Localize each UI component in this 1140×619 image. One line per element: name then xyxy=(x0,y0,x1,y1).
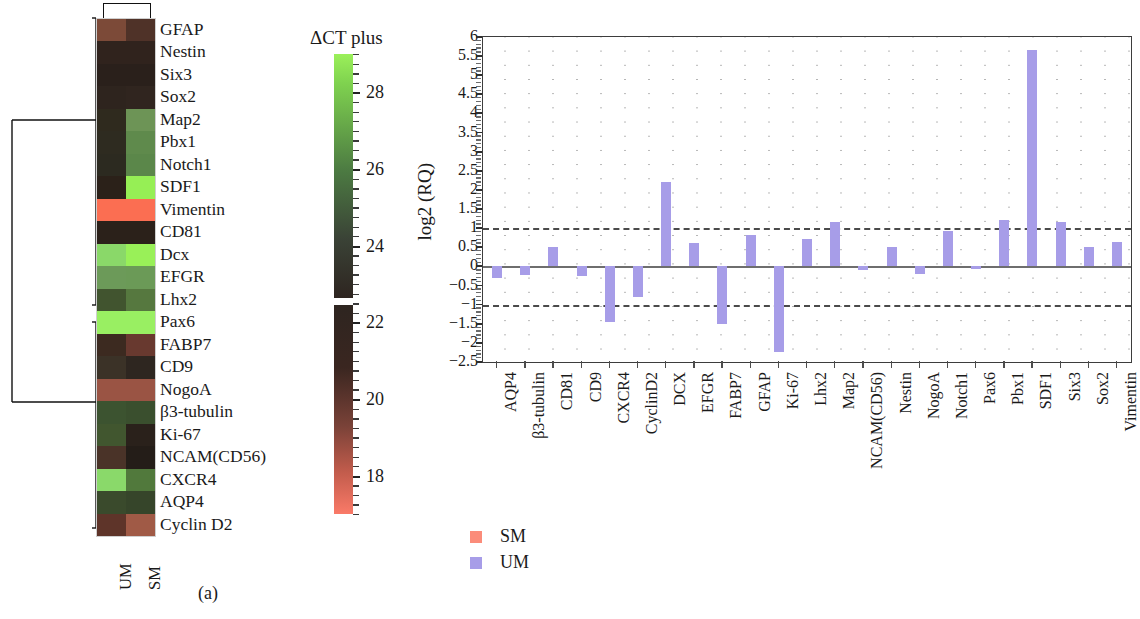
x-tick-label: CD9 xyxy=(587,372,605,402)
heatmap-row-label: Six3 xyxy=(160,66,192,84)
colorbar-tick xyxy=(353,150,359,151)
heatmap-row-label: Cyclin D2 xyxy=(160,516,232,534)
colorbar-tick xyxy=(353,485,359,486)
x-tick-mark xyxy=(1116,361,1117,368)
heatmap-row-label: CD81 xyxy=(160,223,202,241)
x-tick-label: Ki-67 xyxy=(784,372,802,409)
x-tick-mark xyxy=(1060,361,1061,368)
x-tick-mark xyxy=(834,361,835,368)
heatmap-cell xyxy=(97,469,126,491)
colorbar-tick-label: 28 xyxy=(366,82,384,103)
colorbar-tick xyxy=(353,64,359,65)
colorbar-tick xyxy=(353,457,359,458)
colorbar-tick-label: 22 xyxy=(366,312,384,333)
heatmap-row xyxy=(97,446,155,468)
colorbar-tick xyxy=(353,102,359,103)
y-tick-mark xyxy=(476,59,481,60)
plot-area xyxy=(482,36,1132,363)
column-bracket xyxy=(103,3,151,18)
y-tick-mark xyxy=(476,262,481,263)
y-tick-mark xyxy=(476,162,481,163)
x-tick-mark xyxy=(496,361,497,368)
heatmap-row-label: Nestin xyxy=(160,43,206,61)
colorbar-tick xyxy=(353,380,359,381)
x-tick-label: Notch1 xyxy=(953,372,971,419)
heatmap-cell xyxy=(126,334,155,356)
y-tick-label: −1.5 xyxy=(449,314,478,332)
y-tick-mark xyxy=(476,120,481,121)
heatmap-column-label: SM xyxy=(145,566,165,590)
legend: SMUM xyxy=(470,526,670,588)
y-tick-mark xyxy=(476,40,481,41)
heatmap-cell xyxy=(126,176,155,198)
colorbar-tick xyxy=(353,495,359,496)
y-tick-mark xyxy=(476,292,481,293)
y-tick-mark xyxy=(476,155,481,156)
heatmap-cell xyxy=(126,514,155,536)
y-tick-mark xyxy=(476,147,481,148)
panel-a-heatmap: GFAPNestinSix3Sox2Map2Pbx1Notch1SDF1Vime… xyxy=(0,0,420,619)
y-tick-mark xyxy=(476,231,481,232)
y-tick-mark xyxy=(476,357,481,358)
heatmap-cell xyxy=(97,154,126,176)
heatmap-cell xyxy=(126,131,155,153)
heatmap-row-label: CXCR4 xyxy=(160,471,216,489)
y-tick-mark xyxy=(476,116,481,117)
colorbar-tick xyxy=(353,54,359,55)
y-tick-mark xyxy=(476,258,481,259)
heatmap-cell xyxy=(126,41,155,63)
bar xyxy=(999,220,1009,267)
bar xyxy=(717,266,727,323)
bar xyxy=(1027,50,1037,266)
y-tick-mark xyxy=(476,300,481,301)
x-tick-label: Nestin xyxy=(897,372,915,414)
heatmap-cell xyxy=(126,311,155,333)
x-tick-label: CXCR4 xyxy=(615,372,633,424)
bar xyxy=(943,231,953,266)
heatmap-cell xyxy=(97,356,126,378)
heatmap-row-label: Pax6 xyxy=(160,313,195,331)
y-tick-mark xyxy=(476,193,481,194)
heatmap-cell xyxy=(97,131,126,153)
heatmap-row-label: Notch1 xyxy=(160,156,212,174)
heatmap-row xyxy=(97,176,155,198)
x-tick-label: CyclinD2 xyxy=(643,372,661,434)
heatmap-row xyxy=(97,311,155,333)
heatmap-row xyxy=(97,154,155,176)
bar xyxy=(971,266,981,269)
colorbar-tick xyxy=(353,188,359,189)
y-tick-mark xyxy=(476,346,481,347)
panel-a-caption: (a) xyxy=(198,583,218,604)
colorbar-tick xyxy=(353,351,359,352)
y-tick-mark xyxy=(476,269,481,270)
heatmap-cell xyxy=(126,109,155,131)
y-tick-mark xyxy=(476,353,481,354)
y-tick-mark xyxy=(476,296,481,297)
y-tick-mark xyxy=(476,78,481,79)
x-tick-label: Vimentin xyxy=(1122,372,1140,431)
heatmap-cell xyxy=(97,109,126,131)
y-tick-mark xyxy=(476,105,481,106)
heatmap-row xyxy=(97,334,155,356)
colorbar-tick xyxy=(353,140,359,141)
heatmap-row xyxy=(97,401,155,423)
y-tick-mark xyxy=(476,166,481,167)
heatmap-grid xyxy=(96,18,156,537)
y-tick-mark xyxy=(476,109,481,110)
heatmap-cell xyxy=(97,199,126,221)
heatmap-cell xyxy=(126,19,155,41)
heatmap-row-label: AQP4 xyxy=(160,493,204,511)
y-tick-label: −0.5 xyxy=(449,276,478,294)
y-tick-mark xyxy=(476,177,481,178)
y-tick-mark xyxy=(476,197,481,198)
heatmap-row xyxy=(97,289,155,311)
y-tick-mark xyxy=(476,82,481,83)
y-tick-mark xyxy=(476,51,481,52)
bar xyxy=(915,266,925,274)
heatmap-row xyxy=(97,356,155,378)
y-tick-mark xyxy=(476,254,481,255)
heatmap-row xyxy=(97,221,155,243)
heatmap-row xyxy=(97,19,155,41)
heatmap-cell xyxy=(126,221,155,243)
y-tick-mark xyxy=(476,139,481,140)
